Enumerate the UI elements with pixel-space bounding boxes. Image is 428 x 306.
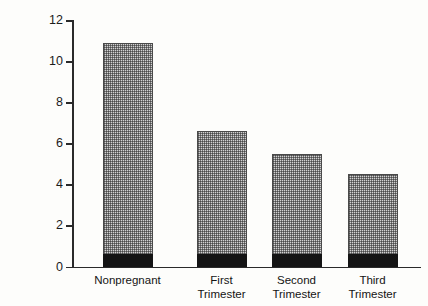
y-tick-mark (66, 184, 72, 186)
bar-second-trimester (272, 154, 322, 267)
y-axis-title: [PHENYTOIN] (µg/mL) (0, 0, 48, 306)
y-tick-label: 6 (56, 136, 63, 150)
y-tick-label: 8 (56, 95, 63, 109)
bar-base-segment (197, 254, 247, 266)
y-tick-mark (66, 143, 72, 145)
y-tick-label: 2 (56, 218, 63, 232)
bar-third-trimester (348, 174, 398, 266)
bar-total-segment (197, 131, 247, 267)
bar-base-segment (272, 254, 322, 266)
y-tick-mark (66, 267, 72, 269)
y-tick-mark (66, 20, 72, 22)
y-tick-mark (66, 102, 72, 104)
y-tick-label: 4 (56, 177, 63, 191)
bar-total-segment (272, 154, 322, 267)
y-tick-label: 0 (56, 260, 63, 274)
phenytoin-bar-chart: [PHENYTOIN] (µg/mL) 024681012 Nonpregnan… (0, 0, 428, 306)
bar-nonpregnant (103, 43, 153, 267)
bar-total-segment (103, 43, 153, 267)
bar-base-segment (103, 254, 153, 266)
category-label-third-trimester: Third Trimester (318, 274, 428, 301)
y-tick-label: 10 (49, 54, 63, 68)
x-axis-line (72, 267, 421, 269)
y-tick-label: 12 (49, 13, 63, 27)
bar-total-segment (348, 174, 398, 266)
bar-base-segment (348, 254, 398, 266)
plot-area: 024681012 (72, 20, 421, 268)
bar-first-trimester (197, 131, 247, 267)
y-tick-mark (66, 61, 72, 63)
y-tick-mark (66, 225, 72, 227)
y-axis-line (72, 20, 74, 268)
